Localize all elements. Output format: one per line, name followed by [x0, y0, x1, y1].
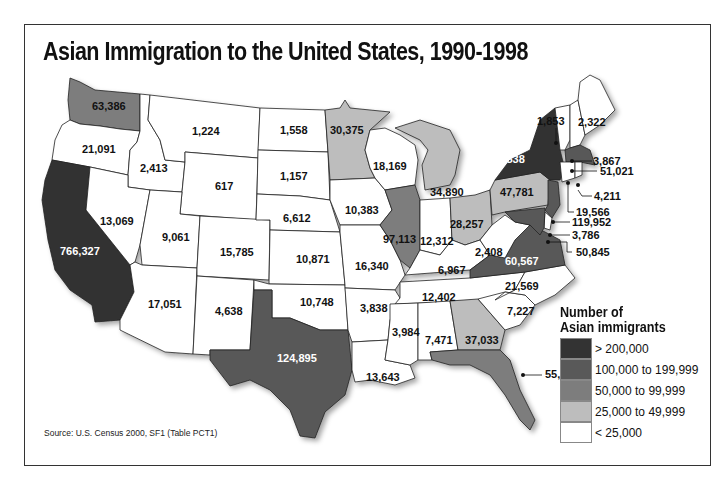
label-ca: 766,327 — [60, 245, 100, 257]
label-ut: 9,061 — [162, 231, 190, 243]
label-mt: 1,224 — [192, 125, 220, 137]
label-ri: 4,211 — [594, 190, 621, 202]
label-ar: 3,838 — [360, 302, 388, 314]
label-oh: 28,257 — [450, 218, 484, 230]
legend-label: > 200,000 — [595, 342, 649, 356]
label-il: 97,113 — [383, 233, 416, 245]
label-va: 60,567 — [505, 255, 539, 267]
label-in: 12,312 — [420, 235, 454, 247]
legend-title-line2: Asian immigrants — [560, 320, 685, 335]
label-wy: 617 — [215, 180, 233, 192]
label-sd: 1,157 — [280, 170, 308, 182]
label-ny: 282,538 — [485, 153, 525, 165]
label-me: 2,322 — [578, 116, 606, 128]
label-ma: 51,021 — [600, 165, 634, 177]
legend-swatch — [560, 380, 592, 401]
label-pa: 47,781 — [500, 186, 534, 198]
label-nj: 119,952 — [572, 216, 611, 228]
source-note: Source: U.S. Census 2000, SF1 (Table PCT… — [44, 428, 217, 438]
label-ne: 6,612 — [283, 212, 311, 224]
label-co: 15,785 — [220, 246, 254, 258]
state-ri — [575, 162, 582, 178]
label-id: 2,413 — [140, 162, 168, 174]
label-md: 50,845 — [576, 246, 610, 258]
legend-swatch — [560, 338, 592, 359]
label-tx: 124,895 — [277, 352, 317, 364]
label-sc: 7,227 — [507, 305, 535, 317]
label-la: 13,643 — [366, 371, 400, 383]
label-nv: 13,069 — [100, 215, 134, 227]
label-mo: 16,340 — [355, 260, 389, 272]
label-or: 21,091 — [82, 143, 116, 155]
legend-label: 25,000 to 49,999 — [595, 405, 685, 419]
label-mi: 34,890 — [430, 186, 464, 198]
legend-swatch — [560, 422, 592, 443]
label-ms: 3,984 — [392, 326, 420, 338]
label-vt: 1,853 — [537, 115, 565, 127]
legend-label: 100,000 to 199,999 — [595, 363, 698, 377]
label-az: 17,051 — [148, 298, 182, 310]
label-nm: 4,638 — [215, 305, 243, 317]
legend-item: 25,000 to 49,999 — [560, 401, 698, 422]
label-ky: 6,967 — [438, 264, 466, 276]
state-fl — [430, 350, 535, 430]
label-wv: 2,408 — [475, 246, 503, 258]
legend-swatch — [560, 359, 592, 380]
legend: Number of Asian immigrants > 200,000 100… — [560, 305, 698, 443]
legend-item: > 200,000 — [560, 338, 698, 359]
label-ga: 37,033 — [465, 334, 499, 346]
legend-item: 50,000 to 99,999 — [560, 380, 698, 401]
label-ok: 10,748 — [300, 296, 334, 308]
label-ks: 10,871 — [296, 253, 330, 265]
label-mn: 30,375 — [330, 124, 364, 136]
legend-item: 100,000 to 199,999 — [560, 359, 698, 380]
label-nc: 21,569 — [505, 280, 539, 292]
label-wi: 18,169 — [373, 160, 407, 172]
legend-swatch — [560, 401, 592, 422]
label-nd: 1,558 — [280, 124, 308, 136]
label-al: 7,471 — [425, 334, 453, 346]
legend-label: 50,000 to 99,999 — [595, 384, 685, 398]
legend-item: < 25,000 — [560, 422, 698, 443]
label-ia: 10,383 — [345, 204, 379, 216]
legend-label: < 25,000 — [595, 426, 642, 440]
label-wa: 63,386 — [92, 100, 126, 112]
label-tn: 12,402 — [422, 291, 456, 303]
legend-title-line1: Number of — [560, 305, 685, 320]
label-de: 3,786 — [572, 229, 600, 241]
